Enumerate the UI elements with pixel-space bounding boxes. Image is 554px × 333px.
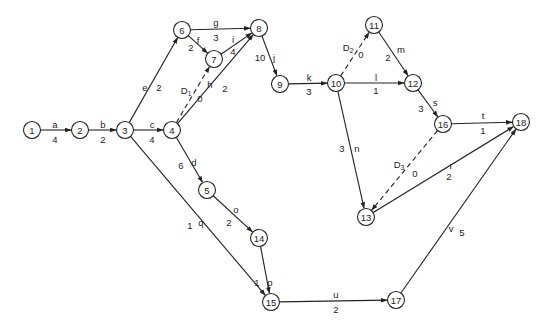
activity-label: k bbox=[307, 72, 312, 83]
duration-label: 0 bbox=[412, 168, 417, 179]
duration-label: 1 bbox=[373, 85, 378, 96]
edge-13-18 bbox=[373, 127, 513, 213]
node-label: 13 bbox=[361, 212, 372, 223]
duration-label: 2 bbox=[222, 83, 227, 94]
activity-label: t bbox=[482, 110, 485, 121]
activity-label: d bbox=[191, 157, 196, 168]
activity-label: n bbox=[354, 143, 359, 154]
node-label: 2 bbox=[77, 125, 82, 136]
activity-label: h bbox=[207, 79, 212, 90]
node-17: 17 bbox=[388, 292, 405, 309]
edge-10-11 bbox=[341, 33, 369, 76]
node-label: 9 bbox=[277, 79, 282, 90]
node-label: 17 bbox=[391, 295, 402, 306]
node-13: 13 bbox=[358, 209, 375, 226]
duration-label: 2 bbox=[100, 134, 105, 145]
node-label: 11 bbox=[369, 20, 379, 31]
node-label: 12 bbox=[408, 78, 419, 89]
duration-label: 1 bbox=[254, 277, 259, 288]
node-label: 18 bbox=[516, 117, 527, 128]
duration-label: 2 bbox=[156, 82, 161, 93]
duration-label: 2 bbox=[446, 171, 451, 182]
node-label: 5 bbox=[204, 185, 209, 196]
node-18: 18 bbox=[513, 114, 530, 131]
node-label: 4 bbox=[169, 125, 174, 136]
activity-label: c bbox=[150, 119, 155, 130]
duration-label: 0 bbox=[358, 49, 363, 60]
duration-label: 2 bbox=[333, 304, 338, 315]
activity-label: i bbox=[232, 34, 234, 45]
node-label: 6 bbox=[179, 25, 184, 36]
activity-label: e bbox=[142, 82, 147, 93]
activity-label: s bbox=[433, 97, 438, 108]
node-4: 4 bbox=[164, 122, 181, 139]
duration-label: 6 bbox=[178, 160, 183, 171]
duration-label: 2 bbox=[226, 217, 231, 228]
duration-label: 1 bbox=[187, 220, 192, 231]
duration-label: 4 bbox=[52, 134, 57, 145]
duration-label: 10 bbox=[255, 52, 266, 63]
duration-label: 3 bbox=[213, 32, 218, 43]
node-15: 15 bbox=[263, 294, 280, 311]
duration-label: 0 bbox=[197, 93, 202, 104]
node-label: 15 bbox=[266, 297, 277, 308]
edge-6-8 bbox=[190, 28, 250, 30]
node-label: 1 bbox=[29, 125, 34, 136]
duration-label: 5 bbox=[459, 227, 464, 238]
duration-label: 2 bbox=[385, 52, 390, 63]
activity-label: g bbox=[213, 17, 218, 28]
activity-label: D1 bbox=[181, 85, 192, 97]
activity-label: m bbox=[397, 44, 405, 55]
edge-15-17 bbox=[279, 300, 387, 302]
node-10: 10 bbox=[328, 75, 345, 92]
node-12: 12 bbox=[405, 75, 422, 92]
node-14: 14 bbox=[251, 230, 268, 247]
node-label: 8 bbox=[256, 23, 261, 34]
node-11: 11 bbox=[366, 17, 383, 34]
activity-label: v bbox=[449, 223, 454, 234]
activity-label: r bbox=[449, 160, 452, 171]
activity-label: f bbox=[197, 35, 200, 46]
node-label: 16 bbox=[438, 119, 449, 130]
node-1: 1 bbox=[24, 122, 41, 139]
duration-label: 4 bbox=[149, 134, 154, 145]
duration-label: 2 bbox=[188, 42, 193, 53]
node-5: 5 bbox=[199, 182, 216, 199]
node-2: 2 bbox=[72, 122, 89, 139]
node-3: 3 bbox=[117, 122, 134, 139]
activity-label: u bbox=[333, 289, 338, 300]
activity-label: j bbox=[272, 52, 275, 63]
activity-label: q bbox=[198, 217, 203, 228]
node-label: 14 bbox=[254, 233, 265, 244]
node-16: 16 bbox=[435, 116, 452, 133]
activity-label: p bbox=[267, 277, 272, 288]
edges-layer bbox=[41, 28, 516, 302]
node-label: 7 bbox=[211, 54, 216, 65]
edge-7-8 bbox=[221, 33, 252, 54]
network-diagram: a4b2c4d6e2f2g3h2i4j10k3l1m2n3o2p1q1r2s3t… bbox=[0, 0, 554, 333]
node-label: 3 bbox=[122, 125, 127, 136]
node-label: 10 bbox=[331, 78, 342, 89]
activity-label: o bbox=[233, 204, 238, 215]
duration-label: 4 bbox=[230, 46, 235, 57]
edge-3-6 bbox=[129, 38, 177, 123]
activity-label: D3 bbox=[394, 159, 405, 171]
network-diagram-canvas: a4b2c4d6e2f2g3h2i4j10k3l1m2n3o2p1q1r2s3t… bbox=[0, 0, 554, 333]
duration-label: 3 bbox=[418, 103, 423, 114]
duration-label: 3 bbox=[306, 86, 311, 97]
duration-label: 1 bbox=[480, 125, 485, 136]
edge-9-10 bbox=[288, 83, 327, 84]
node-6: 6 bbox=[174, 22, 191, 39]
activity-label: b bbox=[100, 119, 105, 130]
duration-label: 3 bbox=[339, 143, 344, 154]
labels-layer: a4b2c4d6e2f2g3h2i4j10k3l1m2n3o2p1q1r2s3t… bbox=[52, 17, 485, 315]
node-8: 8 bbox=[251, 20, 268, 37]
activity-label: l bbox=[375, 72, 377, 83]
node-7: 7 bbox=[206, 51, 223, 68]
edge-16-13 bbox=[372, 131, 438, 211]
activity-label: D2 bbox=[343, 42, 354, 54]
node-9: 9 bbox=[272, 76, 289, 93]
activity-label: a bbox=[52, 119, 58, 130]
